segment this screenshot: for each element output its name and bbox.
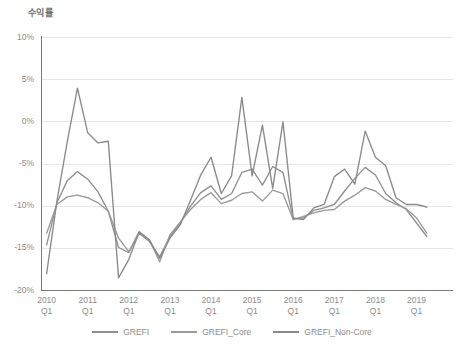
series-line-grefi-core bbox=[47, 188, 427, 262]
x-tick-label: 2012Q1 bbox=[109, 295, 149, 316]
x-tick-year: 2011 bbox=[68, 295, 108, 306]
x-tick-quarter: Q1 bbox=[68, 306, 108, 317]
x-tick-quarter: Q1 bbox=[355, 306, 395, 317]
y-tick-label: -15% bbox=[2, 242, 34, 252]
legend-label: GREFI_Core bbox=[202, 327, 251, 337]
legend-item[interactable]: GREFI bbox=[92, 327, 149, 337]
x-tick-quarter: Q1 bbox=[109, 306, 149, 317]
series-lines-group bbox=[47, 88, 427, 278]
legend-line-icon bbox=[92, 331, 118, 333]
x-tick-quarter: Q1 bbox=[27, 306, 67, 317]
legend-line-icon bbox=[171, 331, 197, 333]
x-tick-label: 2016Q1 bbox=[273, 295, 313, 316]
axis-lines-group bbox=[42, 36, 453, 291]
legend-label: GREFI bbox=[123, 327, 149, 337]
x-tick-quarter: Q1 bbox=[273, 306, 313, 317]
chart-legend: GREFIGREFI_CoreGREFI_Non-Core bbox=[0, 327, 464, 337]
x-tick-year: 2018 bbox=[355, 295, 395, 306]
x-tick-label: 2011Q1 bbox=[68, 295, 108, 316]
y-tick-label: 0% bbox=[2, 116, 34, 126]
x-tick-quarter: Q1 bbox=[314, 306, 354, 317]
x-tick-year: 2012 bbox=[109, 295, 149, 306]
x-tick-label: 2018Q1 bbox=[355, 295, 395, 316]
x-tick-year: 2016 bbox=[273, 295, 313, 306]
y-tick-label: -5% bbox=[2, 158, 34, 168]
x-tick-year: 2013 bbox=[150, 295, 190, 306]
x-tick-label: 2015Q1 bbox=[232, 295, 272, 316]
legend-line-icon bbox=[273, 331, 299, 333]
x-tick-quarter: Q1 bbox=[150, 306, 190, 317]
x-tick-year: 2014 bbox=[191, 295, 231, 306]
series-line-grefi bbox=[47, 167, 427, 257]
x-tick-label: 2013Q1 bbox=[150, 295, 190, 316]
y-tick-label: -10% bbox=[2, 200, 34, 210]
x-tick-year: 2017 bbox=[314, 295, 354, 306]
x-tick-label: 2014Q1 bbox=[191, 295, 231, 316]
legend-item[interactable]: GREFI_Core bbox=[171, 327, 251, 337]
x-tick-year: 2019 bbox=[397, 295, 437, 306]
x-tick-label: 2017Q1 bbox=[314, 295, 354, 316]
x-tick-year: 2015 bbox=[232, 295, 272, 306]
x-tick-year: 2010 bbox=[27, 295, 67, 306]
x-tick-quarter: Q1 bbox=[191, 306, 231, 317]
x-tick-label: 2010Q1 bbox=[27, 295, 67, 316]
y-tick-label: 10% bbox=[2, 32, 34, 42]
chart-container: 수익률 10%5%0%-5%-10%-15%-20% 2010Q12011Q12… bbox=[0, 0, 464, 355]
legend-label: GREFI_Non-Core bbox=[304, 327, 372, 337]
x-tick-label: 2019Q1 bbox=[397, 295, 437, 316]
x-tick-quarter: Q1 bbox=[232, 306, 272, 317]
x-tick-quarter: Q1 bbox=[397, 306, 437, 317]
y-tick-label: -20% bbox=[2, 285, 34, 295]
legend-item[interactable]: GREFI_Non-Core bbox=[273, 327, 372, 337]
gridlines-group bbox=[42, 38, 453, 249]
y-tick-label: 5% bbox=[2, 74, 34, 84]
